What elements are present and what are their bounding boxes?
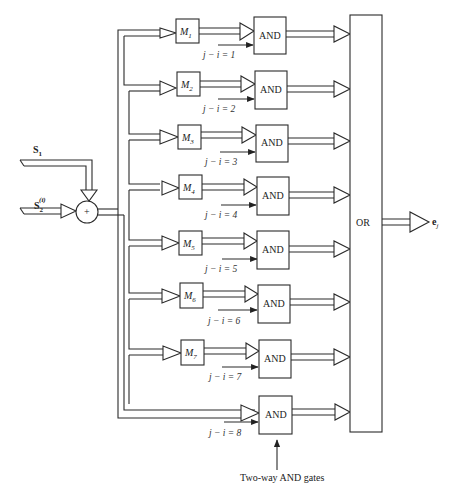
and-3-condition: j − i = 3	[203, 157, 238, 167]
row-2: M2 j − i = 2 AND	[160, 71, 350, 114]
input-s2-arrow	[20, 204, 76, 218]
row-4: M4 j − i = 4 AND	[162, 175, 350, 220]
row-6: M6 j − i = 6 AND	[162, 283, 350, 326]
and-gate-2-label: AND	[260, 84, 282, 95]
annotation-label: Two-way AND gates	[240, 472, 324, 483]
and-gate-7-label: AND	[264, 353, 286, 364]
and-gate-4-label: AND	[262, 190, 284, 201]
input-s2-label: S2(i)	[34, 196, 46, 214]
row-3: M3 j − i = 3 AND	[160, 125, 350, 167]
and-gate-8-label: AND	[265, 409, 287, 420]
and-8-condition: j − i = 8	[207, 428, 242, 438]
row-7: M7 j − i = 7 AND	[163, 340, 350, 382]
and-5-condition: j − i = 5	[203, 264, 238, 274]
and-gate-5-label: AND	[262, 244, 284, 255]
and-2-condition: j − i = 2	[201, 104, 236, 114]
and-4-condition: j − i = 4	[203, 210, 238, 220]
output-arrow	[382, 212, 429, 232]
block-diagram: S1 S2(i) +	[0, 0, 468, 491]
and-7-condition: j − i = 7	[207, 372, 243, 382]
output-label: ej	[432, 216, 438, 230]
row-8: j − i = 8 AND	[207, 396, 350, 438]
input-s1-label: S1	[33, 144, 43, 158]
and-gate-1-label: AND	[259, 30, 281, 41]
and-6-condition: j − i = 6	[206, 316, 241, 326]
row-5: M5 j − i = 5 AND	[162, 231, 350, 274]
row-1: M1 j − i = 1 AND	[160, 17, 350, 60]
or-gate: OR	[350, 15, 382, 432]
or-gate-label: OR	[356, 217, 370, 228]
and-1-condition: j − i = 1	[201, 50, 235, 60]
adder: +	[76, 201, 98, 223]
branch-connectors	[124, 36, 163, 404]
and-gate-3-label: AND	[261, 137, 283, 148]
adder-symbol: +	[84, 206, 90, 217]
input-s1-arrow	[20, 160, 97, 201]
and-gate-6-label: AND	[263, 298, 285, 309]
